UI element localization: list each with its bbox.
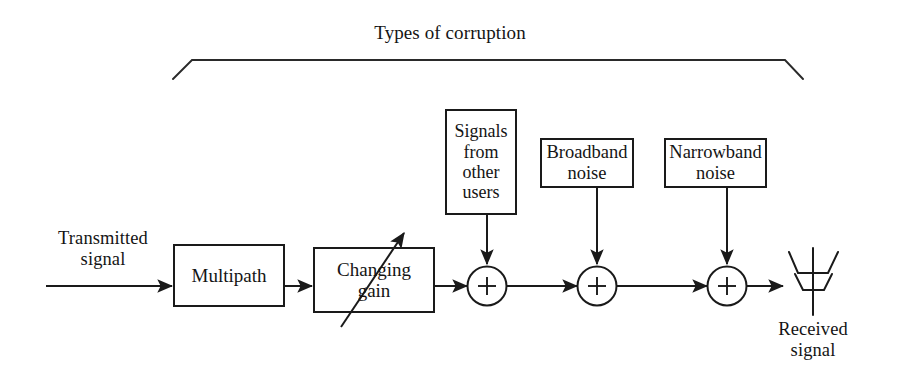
- receiver-antenna-icon: [789, 248, 838, 315]
- figure-title: Types of corruption: [290, 22, 610, 43]
- broadband-noise-block: [541, 139, 633, 264]
- narrowband-noise-block: [665, 139, 766, 264]
- summer-3: [708, 267, 747, 306]
- corruption-bracket: [173, 60, 803, 79]
- block-diagram: Types of corruption Transmitted signal R…: [0, 0, 899, 380]
- transmitted-signal-label: Transmitted signal: [28, 228, 178, 269]
- changing-gain-block: [314, 233, 434, 327]
- summer-1: [468, 267, 507, 306]
- summer-2: [578, 267, 617, 306]
- received-signal-label: Received signal: [748, 319, 878, 360]
- signals-other-users-block: [446, 110, 516, 264]
- multipath-block: [174, 245, 284, 306]
